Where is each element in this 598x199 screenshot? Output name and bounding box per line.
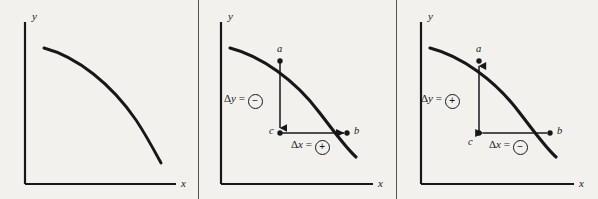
- curve-path: [44, 48, 161, 163]
- panel-divider-1: [198, 0, 199, 199]
- equals-symbol: =: [239, 92, 245, 104]
- figure-three-panel-slope-signs: y x: [0, 0, 598, 199]
- delta-x-annotation: Δx = +: [291, 139, 330, 155]
- y-axis-label: y: [32, 11, 37, 22]
- panel-positive-delta-y: y x a c b Δy = + Δx = −: [397, 0, 598, 199]
- equals-symbol: =: [306, 138, 312, 150]
- delta-x-annotation: Δx = −: [489, 139, 528, 155]
- circled-minus-icon: −: [513, 140, 528, 155]
- point-a-label: a: [476, 44, 481, 55]
- y-axis-label: y: [228, 11, 233, 22]
- equals-symbol: =: [504, 138, 510, 150]
- point-a-label: a: [277, 44, 282, 55]
- circled-plus-icon: +: [445, 94, 460, 109]
- x-axis-label: x: [181, 178, 186, 189]
- x-axis-label: x: [378, 178, 383, 189]
- delta-y-annotation: Δy = +: [421, 93, 460, 109]
- delta-x-variable: x: [298, 138, 303, 150]
- circled-plus-icon: +: [315, 140, 330, 155]
- panel-curve-only: y x: [0, 0, 199, 199]
- point-a-dot: [476, 58, 481, 63]
- point-a-dot: [277, 58, 282, 63]
- x-axis-label: x: [579, 178, 584, 189]
- delta-y-variable: y: [231, 92, 236, 104]
- delta-x-variable: x: [496, 138, 501, 150]
- point-b-dot: [344, 130, 349, 135]
- point-c-dot: [476, 130, 481, 135]
- delta-y-variable: y: [428, 92, 433, 104]
- point-b-label: b: [557, 126, 562, 137]
- point-b-dot: [547, 130, 552, 135]
- circled-minus-icon: −: [248, 94, 263, 109]
- delta-y-annotation: Δy = −: [224, 93, 263, 109]
- point-c-label: c: [269, 126, 274, 137]
- panel-1-graphic: [0, 0, 199, 199]
- equals-symbol: =: [436, 92, 442, 104]
- point-c-label: c: [468, 137, 473, 148]
- panel-negative-delta-y: y x a c b Δy = − Δx = +: [199, 0, 397, 199]
- panel-divider-2: [396, 0, 397, 199]
- point-c-dot: [277, 130, 282, 135]
- point-b-label: b: [354, 126, 359, 137]
- y-axis-label: y: [428, 11, 433, 22]
